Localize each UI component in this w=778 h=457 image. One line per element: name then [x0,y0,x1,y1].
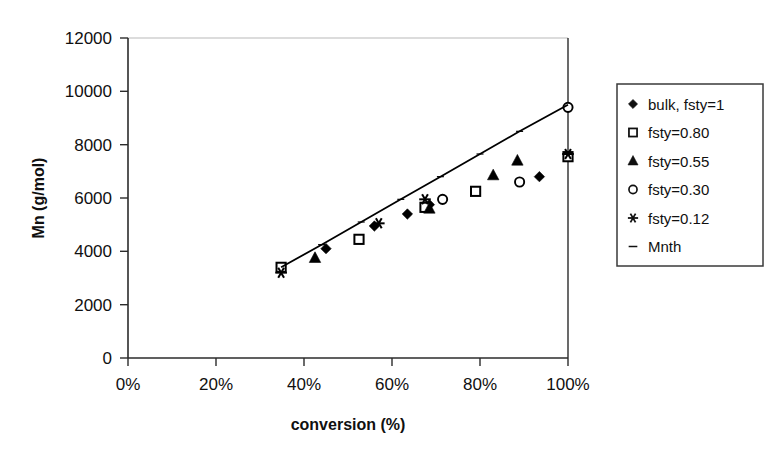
legend-marker-open-circle-icon [629,185,637,193]
chart-figure: 0 2000 4000 6000 8000 10000 12000 0% 20%… [0,0,778,457]
data-point [515,177,524,186]
x-tick-label-60: 60% [375,375,409,394]
y-axis-title: Mn (g/mol) [30,158,47,239]
legend-label: bulk, fsty=1 [648,96,724,113]
data-point [471,187,480,196]
x-tick-label-0: 0% [116,375,141,394]
y-tick-label-4000: 4000 [74,242,112,261]
x-axis-title: conversion (%) [291,416,406,433]
data-point [354,235,363,244]
x-tick-label-100: 100% [546,375,589,394]
y-tick-label-2000: 2000 [74,296,112,315]
x-tick-label-80: 80% [463,375,497,394]
y-tick-label-0: 0 [103,349,112,368]
legend: bulk, fsty=1fsty=0.80fsty=0.55fsty=0.30f… [617,84,763,266]
y-tick-label-10000: 10000 [65,82,112,101]
x-tick-label-20: 20% [199,375,233,394]
y-tick-label-12000: 12000 [65,29,112,48]
scatter-plot-svg: 0 2000 4000 6000 8000 10000 12000 0% 20%… [0,0,778,457]
legend-label: fsty=0.55 [648,153,709,170]
y-tick-label-6000: 6000 [74,189,112,208]
y-tick-label-8000: 8000 [74,136,112,155]
legend-label: Mnth [648,238,681,255]
legend-label: fsty=0.80 [648,124,709,141]
legend-label: fsty=0.12 [648,210,709,227]
x-tick-label-40: 40% [287,375,321,394]
legend-label: fsty=0.30 [648,181,709,198]
legend-marker-open-square-icon [629,128,637,136]
data-point [438,195,447,204]
